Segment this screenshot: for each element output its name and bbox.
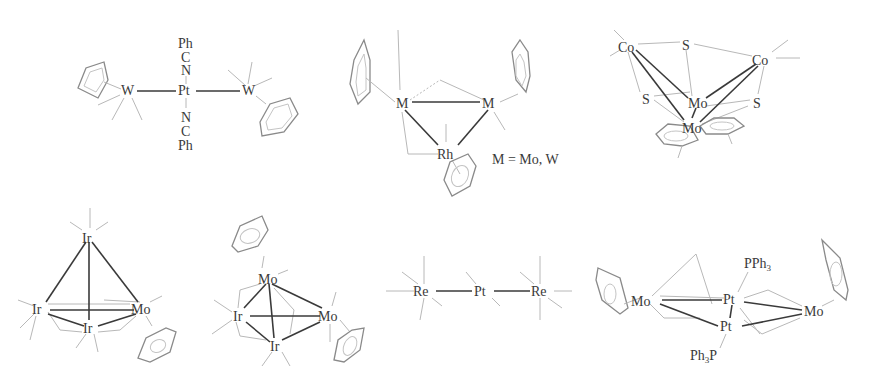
atom-ph-bottom: Ph xyxy=(178,138,193,153)
atom-s-top: S xyxy=(682,38,690,53)
atom-mo-right: Mo xyxy=(318,309,337,324)
atom-mo-left: Mo xyxy=(631,294,650,309)
structure-2: M M Rh M = Mo, W xyxy=(350,30,560,196)
atom-re-left: Re xyxy=(413,284,429,299)
atom-n-top: N xyxy=(181,63,191,78)
atom-w-left: W xyxy=(121,83,135,98)
atom-ph-top: Ph xyxy=(178,36,193,51)
atom-ir-bottom: Ir xyxy=(83,321,93,336)
atom-n-bottom: N xyxy=(181,110,191,125)
cp-ring-icon xyxy=(596,268,628,314)
metal-legend: M = Mo, W xyxy=(492,152,560,167)
atom-co-left: Co xyxy=(618,40,634,55)
atom-mo-right: Mo xyxy=(804,304,823,319)
ligand-ph3p-bottom: Ph3P xyxy=(690,348,717,365)
atom-ir-left: Ir xyxy=(233,309,243,324)
atom-pt-lower: Pt xyxy=(720,319,732,334)
atom-ir-top: Ir xyxy=(82,231,92,246)
atom-c-bottom: C xyxy=(181,124,190,139)
atom-rh: Rh xyxy=(437,147,453,162)
atom-mo-top: Mo xyxy=(258,272,277,287)
structure-5: Mo Ir Mo Ir xyxy=(212,216,364,366)
structure-6: Re Pt Re xyxy=(386,256,572,320)
atom-pt: Pt xyxy=(474,284,486,299)
atom-co-right: Co xyxy=(752,53,768,68)
atom-pt: Pt xyxy=(178,83,190,98)
structures-canvas: W Pt W Ph C N N C Ph M M R xyxy=(0,0,869,383)
structure-7: Mo Pt Mo Pt PPh3 Ph3P xyxy=(596,240,848,365)
atom-pt-upper: Pt xyxy=(723,292,735,307)
structure-1: W Pt W Ph C N N C Ph xyxy=(78,36,298,153)
atom-ir-left: Ir xyxy=(32,302,42,317)
cp-ring-icon xyxy=(700,118,744,134)
atom-s-left: S xyxy=(642,92,650,107)
atom-s-right: S xyxy=(753,96,761,111)
cp-ring-icon xyxy=(822,240,848,300)
atom-re-right: Re xyxy=(531,284,547,299)
atom-m-right: M xyxy=(482,96,495,111)
atom-w-right: W xyxy=(242,83,256,98)
atom-mo: Mo xyxy=(131,302,150,317)
atom-mo-upper: Mo xyxy=(688,96,707,111)
structure-3: Co S Co Mo S S Mo xyxy=(610,30,800,158)
atom-mo-lower: Mo xyxy=(682,121,701,136)
atom-ir-bottom: Ir xyxy=(270,339,280,354)
structure-4: Ir Ir Mo Ir xyxy=(18,208,176,362)
atom-m-left: M xyxy=(396,96,409,111)
cp-ring-icon xyxy=(334,328,364,362)
ligand-pph3-top: PPh3 xyxy=(744,256,772,273)
cp-ring-icon xyxy=(138,328,176,362)
cp-ring-icon xyxy=(232,216,268,252)
